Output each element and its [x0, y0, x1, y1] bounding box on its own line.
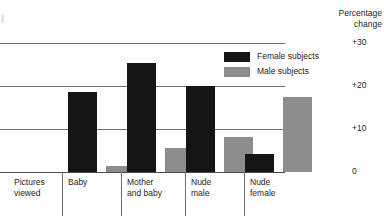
chart-figure: Percentage change +30 +20 +10 0 Female s…: [0, 0, 384, 224]
bar-mother-and-baby-female: [127, 63, 156, 172]
category-label-nude-male-line2: male: [191, 188, 211, 199]
category-label-nude-female: Nude female: [250, 177, 276, 198]
category-label-mother-and-baby: Mother and baby: [127, 177, 162, 198]
bar-nude-female-female: [245, 154, 274, 172]
y-tick-label-10: +10: [352, 124, 366, 133]
y-tick-label-0: 0: [352, 167, 357, 176]
category-label-nude-male-line1: Nude: [191, 177, 211, 188]
y-axis-caption: Percentage change: [272, 8, 382, 29]
category-label-nude-female-line2: female: [250, 188, 276, 199]
category-label-baby: Baby: [68, 177, 87, 188]
y-tick-label-30: +30: [352, 38, 366, 47]
x-axis-row-label-line2: viewed: [14, 188, 45, 199]
y-axis-caption-line2: change: [272, 19, 382, 30]
legend-swatch-male-icon: [224, 67, 250, 77]
x-axis-row-label: Pictures viewed: [14, 177, 45, 198]
category-separator-3: [244, 172, 245, 216]
bar-nude-female-male: [283, 97, 312, 172]
scan-artifact: [1, 14, 4, 23]
bar-nude-male-female: [186, 86, 215, 172]
legend-label-female: Female subjects: [257, 52, 319, 61]
category-label-mother-and-baby-line1: Mother: [127, 177, 162, 188]
legend-item-female: Female subjects: [224, 49, 319, 64]
legend: Female subjects Male subjects: [224, 49, 319, 79]
legend-label-male: Male subjects: [257, 67, 309, 76]
axis-baseline: [0, 172, 285, 173]
category-label-mother-and-baby-line2: and baby: [127, 188, 162, 199]
category-label-nude-female-line1: Nude: [250, 177, 276, 188]
category-label-nude-male: Nude male: [191, 177, 211, 198]
x-axis-row-label-line1: Pictures: [14, 177, 45, 188]
legend-item-male: Male subjects: [224, 64, 319, 79]
category-separator-0: [62, 172, 63, 216]
category-label-baby-line1: Baby: [68, 177, 87, 188]
y-tick-label-20: +20: [352, 81, 366, 90]
category-separator-2: [185, 172, 186, 216]
bar-baby-female: [68, 92, 97, 172]
legend-swatch-female-icon: [224, 52, 250, 62]
category-separator-1: [121, 172, 122, 216]
y-axis-caption-line1: Percentage: [272, 8, 382, 19]
